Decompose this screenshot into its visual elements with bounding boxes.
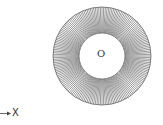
x-axis-label: X: [12, 108, 19, 118]
arrow-right-icon: [7, 112, 11, 116]
annulus-ring: [0, 0, 163, 125]
center-label-o: O: [97, 49, 105, 59]
